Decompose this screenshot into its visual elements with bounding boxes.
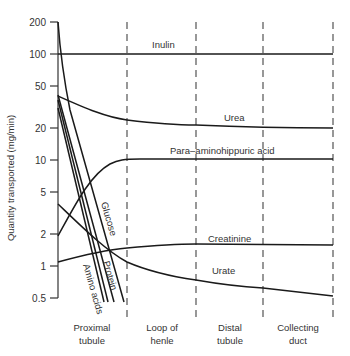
label-amino-acids: Amino acids (81, 263, 106, 316)
tick-100: 100 (29, 49, 46, 60)
region-labels: Proximal tubule Loop of henle Distal tub… (74, 322, 319, 346)
label-inulin: Inulin (152, 39, 175, 50)
tick-1: 1 (40, 261, 46, 272)
tick-0-5: 0.5 (32, 293, 46, 304)
region-loop-line1: Loop of (146, 322, 178, 333)
label-glucose: Glucose (99, 201, 119, 238)
region-loop-line2: henle (150, 335, 173, 346)
label-pah: Para–aminohippuric acid (170, 145, 275, 156)
tick-50: 50 (35, 81, 47, 92)
renal-transport-chart: 200 100 50 20 10 5 2 1 0.5 Quantity tran… (0, 0, 350, 356)
region-distal-line2: tubule (217, 335, 243, 346)
tick-200: 200 (29, 17, 46, 28)
y-tick-labels: 200 100 50 20 10 5 2 1 0.5 (29, 17, 46, 304)
tick-20: 20 (35, 123, 47, 134)
tick-2: 2 (40, 229, 46, 240)
region-distal-line1: Distal (218, 322, 242, 333)
region-collecting-line2: duct (289, 335, 307, 346)
tick-5: 5 (40, 187, 46, 198)
label-urea: Urea (224, 112, 245, 123)
label-urate: Urate (212, 265, 235, 276)
region-collecting-line1: Collecting (277, 322, 319, 333)
label-creatinine: Creatinine (208, 233, 251, 244)
y-axis-title: Quantity transported (mg/min) (5, 115, 16, 241)
tick-10: 10 (35, 155, 47, 166)
region-proximal-line1: Proximal (74, 322, 111, 333)
y-axis (50, 22, 58, 298)
region-proximal-line2: tubule (79, 335, 105, 346)
